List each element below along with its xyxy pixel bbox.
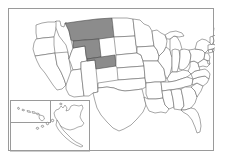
state-kansas[interactable] [117,66,145,80]
state-texas[interactable] [93,87,146,131]
state-florida[interactable] [181,108,201,133]
state-nebraska[interactable] [116,53,144,68]
state-oregon[interactable] [33,37,55,56]
state-north-dakota[interactable] [112,18,135,37]
us-map-svg[interactable] [9,9,215,152]
state-south-dakota[interactable] [114,36,137,55]
alaska-landmass[interactable] [36,103,84,147]
state-ohio[interactable] [179,49,191,70]
state-minnesota[interactable] [133,19,154,47]
hawaii-islands[interactable] [18,107,45,121]
state-arkansas[interactable] [146,82,163,99]
map-frame: United States choropleth map [8,8,214,151]
state-montana[interactable] [65,18,114,41]
map-screenshot: United States choropleth map [0,0,231,162]
state-washington[interactable] [36,21,57,39]
